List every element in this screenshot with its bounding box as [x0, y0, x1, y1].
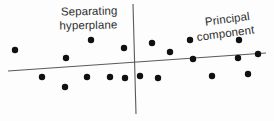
data-point [121, 45, 127, 51]
data-point [167, 49, 173, 55]
data-point [137, 73, 143, 79]
separating-hyperplane-line [133, 4, 136, 114]
principal-component-line [8, 53, 266, 71]
data-point [187, 37, 193, 43]
data-point [88, 37, 94, 43]
data-point [122, 75, 128, 81]
data-point [39, 74, 45, 80]
data-point [235, 55, 241, 61]
data-points-layer [12, 37, 261, 90]
data-point [255, 51, 261, 57]
data-point [107, 74, 113, 80]
separating-hyperplane-label-line-2: hyperplane [59, 18, 118, 33]
data-point [245, 71, 251, 77]
data-point [12, 47, 18, 53]
figure-canvas: Separating hyperplane Principal componen… [0, 0, 274, 121]
data-point [149, 40, 155, 46]
separating-hyperplane-label-line-1: Separating [61, 4, 118, 19]
data-point [209, 73, 215, 79]
data-point [190, 56, 196, 62]
data-point [155, 75, 161, 81]
data-point [63, 55, 69, 61]
separating-hyperplane-label: Separating hyperplane [61, 4, 118, 32]
data-point [62, 84, 68, 90]
data-point [84, 74, 90, 80]
